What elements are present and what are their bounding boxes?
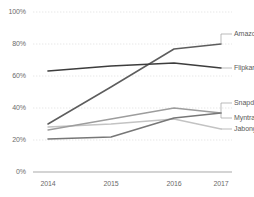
- series-label-myntra: Myntra: [234, 114, 254, 122]
- y-tick-0: 0%: [2, 168, 26, 176]
- leader-amazon: [221, 34, 232, 44]
- series-label-flipkart: Flipkart: [234, 64, 254, 72]
- gridlines: [33, 12, 232, 140]
- series-line-amazon: [48, 44, 221, 124]
- chart-plot-area: [0, 0, 254, 197]
- leader-myntra: [221, 113, 232, 118]
- y-tick-40: 40%: [2, 104, 26, 112]
- x-tick-2015: 2015: [96, 180, 126, 188]
- series-line-jabong: [48, 119, 221, 129]
- series-line-snapdeal: [48, 108, 221, 130]
- series-line-flipkart: [48, 63, 221, 71]
- x-tick-2017: 2017: [206, 180, 236, 188]
- series-label-jabong: Jabong: [234, 125, 254, 133]
- series-label-snapdeal: Snapdeal: [234, 99, 254, 107]
- series-lines: [48, 44, 221, 139]
- x-tick-2014: 2014: [33, 180, 63, 188]
- y-tick-100: 100%: [2, 8, 26, 16]
- line-chart: 100% 80% 60% 40% 20% 0% 2014 2015 2016 2…: [0, 0, 254, 197]
- y-tick-80: 80%: [2, 40, 26, 48]
- y-tick-60: 60%: [2, 72, 26, 80]
- x-tick-2016: 2016: [159, 180, 189, 188]
- series-label-amazon: Amazon: [234, 30, 254, 38]
- y-tick-20: 20%: [2, 136, 26, 144]
- label-leader-lines: [221, 34, 232, 129]
